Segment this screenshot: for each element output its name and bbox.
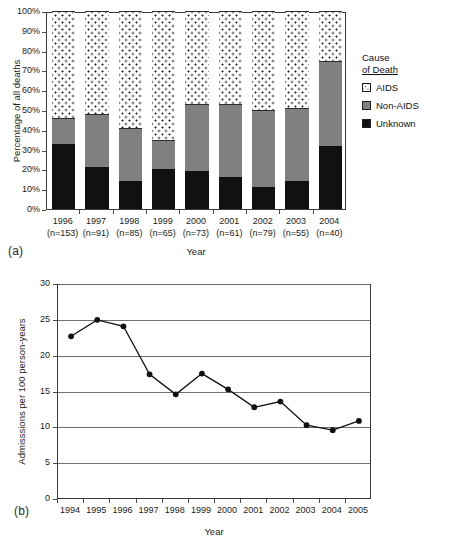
bar-segment-aids — [185, 11, 208, 104]
legend-entry: Non-AIDS — [362, 100, 448, 111]
chart-b-x-tickmark — [345, 499, 346, 503]
chart-a-x-tickmark — [246, 210, 247, 214]
chart-b-y-tick: 25 — [22, 315, 50, 324]
bar-stack — [85, 13, 108, 209]
data-point-marker — [304, 422, 310, 428]
bar-segment-aids — [52, 11, 75, 118]
bar-stack — [185, 13, 208, 209]
bar-segment-unknown — [119, 181, 142, 209]
bar-segment-unknown — [252, 187, 275, 209]
chart-a-y-tick: 40% — [6, 126, 40, 135]
bar-segment-unknown — [285, 181, 308, 209]
bar-segment-non-aids — [85, 114, 108, 167]
legend-swatch-icon — [362, 119, 371, 128]
chart-b-x-tickmark — [240, 499, 241, 503]
chart-b-y-tick: 30 — [22, 279, 50, 288]
chart-b-y-tick: 15 — [22, 387, 50, 396]
bar-segment-aids — [285, 11, 308, 108]
chart-b-x-tickmark — [293, 499, 294, 503]
legend-title: Cause of Death — [362, 52, 448, 75]
chart-a-x-tickmark — [146, 210, 147, 214]
chart-a-y-tick: 100% — [6, 7, 40, 16]
bar-stack — [319, 13, 342, 209]
bar-segment-non-aids — [52, 118, 75, 144]
chart-a-x-tickmark — [79, 210, 80, 214]
legend-entry-label: Unknown — [376, 118, 416, 129]
bar-stack — [219, 13, 242, 209]
chart-b-x-tickmark — [266, 499, 267, 503]
chart-a-x-axis-title: Year — [46, 246, 346, 257]
panel-a-label: (a) — [8, 244, 23, 258]
bar-segment-unknown — [52, 144, 75, 209]
data-point-marker — [121, 323, 127, 329]
chart-b-y-tick: 5 — [22, 458, 50, 467]
data-point-marker — [147, 371, 153, 377]
bar-segment-unknown — [85, 167, 108, 209]
chart-a-x-tickmark — [179, 210, 180, 214]
bar-stack — [152, 13, 175, 209]
bar-segment-aids — [319, 11, 342, 61]
chart-b-y-tick: 20 — [22, 351, 50, 360]
line-path — [71, 320, 359, 430]
data-point-marker — [68, 333, 74, 339]
chart-a-y-tick: 50% — [6, 106, 40, 115]
chart-a-y-tick: 70% — [6, 66, 40, 75]
chart-a-x-tickmark — [313, 210, 314, 214]
data-point-marker — [173, 391, 179, 397]
chart-a-x-tickmark — [113, 210, 114, 214]
chart-a-y-tick: 60% — [6, 86, 40, 95]
chart-a-legend: Cause of Death AIDSNon-AIDSUnknown — [362, 52, 448, 129]
chart-b-x-tickmark — [83, 499, 84, 503]
chart-a-y-tick: 30% — [6, 146, 40, 155]
figure-container: Percentage of all deaths 0%10%20%30%40%5… — [0, 0, 449, 546]
bar-segment-non-aids — [285, 108, 308, 181]
panel-b-line-chart: Admisssions per 100 person-years 0510152… — [0, 275, 449, 546]
panel-a-stacked-bar-chart: Percentage of all deaths 0%10%20%30%40%5… — [0, 0, 449, 275]
legend-title-line1: Cause — [362, 52, 389, 63]
bar-segment-unknown — [152, 169, 175, 209]
chart-b-x-tickmark — [57, 499, 58, 503]
chart-b-x-tickmark — [319, 499, 320, 503]
bar-stack — [119, 13, 142, 209]
data-point-marker — [330, 427, 336, 433]
data-point-marker — [225, 386, 231, 392]
data-point-marker — [278, 399, 284, 405]
legend-swatch-icon — [362, 101, 371, 110]
chart-a-y-tickmark — [42, 210, 46, 211]
chart-a-y-tick: 80% — [6, 47, 40, 56]
data-point-marker — [199, 371, 205, 377]
chart-a-y-tick: 10% — [6, 185, 40, 194]
bar-segment-unknown — [219, 177, 242, 209]
legend-entry-label: AIDS — [376, 82, 398, 93]
bar-segment-aids — [219, 11, 242, 104]
bar-segment-non-aids — [152, 140, 175, 170]
bar-segment-unknown — [319, 146, 342, 209]
legend-entry: Unknown — [362, 118, 448, 129]
legend-title-line2: of Death — [362, 64, 398, 75]
chart-a-plot-area — [46, 12, 346, 210]
data-point-marker — [251, 404, 257, 410]
chart-b-y-tick: 10 — [22, 422, 50, 431]
bar-segment-non-aids — [119, 128, 142, 181]
chart-b-x-tickmark — [162, 499, 163, 503]
chart-b-x-tickmark — [214, 499, 215, 503]
chart-b-y-tick: 0 — [22, 494, 50, 503]
chart-a-y-tick: 0% — [6, 205, 40, 214]
bar-segment-non-aids — [185, 104, 208, 171]
chart-b-plot-area — [57, 284, 371, 499]
data-point-marker — [94, 317, 100, 323]
chart-a-x-tickmark — [279, 210, 280, 214]
bar-stack — [52, 13, 75, 209]
x-tick-year: 2004 — [310, 216, 349, 228]
legend-entry: AIDS — [362, 82, 448, 93]
data-point-marker — [356, 418, 362, 424]
legend-entry-label: Non-AIDS — [376, 100, 419, 111]
bar-stack — [285, 13, 308, 209]
bar-stack — [252, 13, 275, 209]
panel-b-label: (b) — [14, 504, 29, 518]
chart-a-y-tick: 90% — [6, 27, 40, 36]
bar-segment-non-aids — [219, 104, 242, 177]
chart-b-x-axis-title: Year — [57, 526, 371, 537]
bar-segment-non-aids — [252, 110, 275, 187]
chart-a-x-tickmark — [213, 210, 214, 214]
